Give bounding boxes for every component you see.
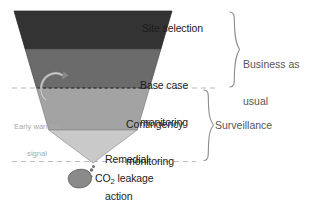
label-co2-leakage: CO2 leakage xyxy=(95,172,154,188)
label-early-warning-line1: Early warning xyxy=(6,122,68,131)
co2-blob-icon xyxy=(68,169,91,188)
label-remedial-line2: action xyxy=(105,190,149,202)
label-co2-prefix: CO xyxy=(95,172,111,184)
bracket-business-as-usual xyxy=(230,12,240,87)
label-business-as-usual: Business as usual xyxy=(243,34,300,132)
ccs-monitoring-funnel-diagram: Site selection Base case monitoring Cont… xyxy=(0,0,311,204)
label-surveillance: Surveillance xyxy=(215,119,272,131)
label-business-line2: usual xyxy=(243,95,300,107)
bracket-surveillance xyxy=(204,90,214,161)
label-business-line1: Business as xyxy=(243,58,300,70)
label-site-selection: Site selection xyxy=(142,22,203,34)
label-remedial-line1: Remedial xyxy=(105,153,149,165)
label-remedial-action: Remedial action xyxy=(105,129,149,204)
label-early-warning-signal: Early warning signal xyxy=(6,104,68,176)
label-early-warning-line2: signal xyxy=(6,149,68,158)
label-co2-suffix: leakage xyxy=(115,172,154,184)
label-base-case-line1: Base case xyxy=(140,79,188,91)
